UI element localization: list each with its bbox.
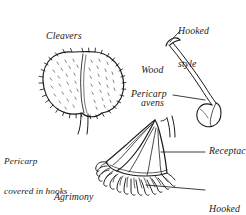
annotation-hooked-style: Hooked style (178, 4, 209, 92)
annotation-pericarp-covered-in-hooks-line1: Pericarp (4, 156, 68, 166)
leader-pericarp (173, 95, 205, 100)
annotation-hooked-styles-line1: Hooked (209, 204, 240, 215)
cleavers-stipple (50, 59, 115, 109)
annotation-hooked-style-line2: style (178, 59, 209, 70)
specimen-label-agrimony: Agrimony (54, 192, 93, 203)
specimen-label-wood-avens: Wood avens (141, 43, 164, 131)
cleavers-drawing (39, 48, 126, 134)
agrimony-hooked-styles (96, 162, 175, 196)
specimen-label-cleavers: Cleavers (46, 31, 82, 42)
annotation-hooked-style-line1: Hooked (178, 26, 209, 37)
botanical-figure: Hooked style Wood avens Pericarp Cleaver… (0, 0, 246, 215)
annotation-pericarp-covered-in-hooks: Pericarp covered in hooks (4, 135, 68, 215)
leader-hooked-styles (146, 185, 205, 190)
annotation-hooked-styles: Hooked styles (209, 182, 240, 215)
annotation-receptacle: Receptacle (209, 146, 246, 157)
annotation-pericarp: Pericarp (131, 89, 167, 100)
specimen-label-wood-avens-line1: Wood (141, 65, 164, 76)
